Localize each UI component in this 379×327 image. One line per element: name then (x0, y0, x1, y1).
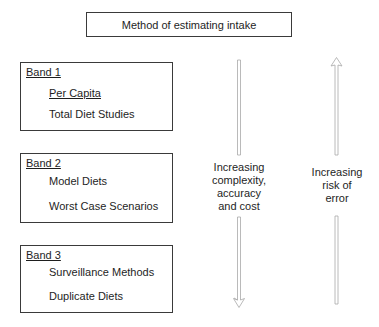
complexity-label-line-2: complexity, (198, 174, 280, 187)
risk-label-line-2: risk of (296, 179, 378, 192)
complexity-label-line-1: Increasing (198, 161, 280, 174)
arrows-layer (0, 0, 379, 327)
complexity-label-line-4: and cost (198, 200, 280, 213)
risk-label-line-1: Increasing (296, 166, 378, 179)
risk-arrow-label: Increasing risk of error (296, 166, 378, 205)
complexity-arrow-label: Increasing complexity, accuracy and cost (198, 161, 280, 213)
risk-label-line-3: error (296, 192, 378, 205)
complexity-label-line-3: accuracy (198, 187, 280, 200)
